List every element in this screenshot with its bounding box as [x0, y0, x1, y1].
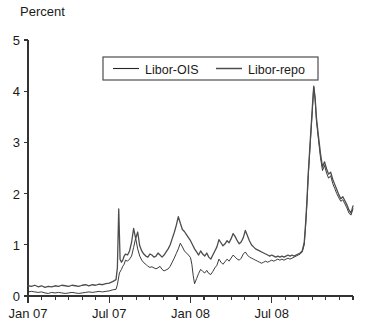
x-tick-label: Jul 08 [254, 306, 289, 321]
chart-legend: Libor-OISLibor-repo [103, 57, 318, 80]
x-tick-group: Jan 07Jul 07Jan 08Jul 08 [8, 296, 353, 321]
y-tick-label: 5 [13, 33, 20, 48]
x-tick-label: Jan 07 [8, 306, 47, 321]
series-group [28, 86, 353, 293]
chart-figure: Percent 012345 Jan 07Jul 07Jan 08Jul 08 … [0, 0, 365, 332]
x-tick-label: Jan 08 [171, 306, 210, 321]
y-tick-label: 3 [13, 135, 20, 150]
chart-plot-area: 012345 Jan 07Jul 07Jan 08Jul 08 Libor-OI… [0, 0, 365, 332]
y-tick-label: 4 [13, 84, 20, 99]
y-tick-label: 0 [13, 289, 20, 304]
legend-label-libor-ois: Libor-OIS [145, 63, 199, 77]
series-line-libor-ois [28, 87, 353, 293]
legend-label-libor-repo: Libor-repo [248, 63, 305, 77]
y-tick-label: 1 [13, 238, 20, 253]
y-tick-group: 012345 [13, 33, 28, 304]
x-tick-label: Jul 07 [92, 306, 127, 321]
y-tick-label: 2 [13, 187, 20, 202]
